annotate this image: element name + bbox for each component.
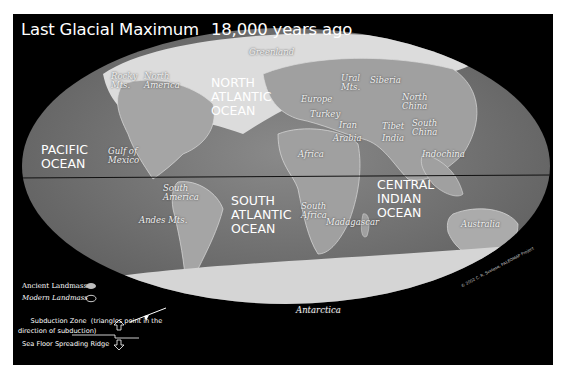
label-europe: Europe: [301, 95, 332, 104]
title-text: Last Glacial Maximum: [21, 20, 199, 39]
label-central-indian-ocean: CENTRAL INDIAN OCEAN: [377, 178, 434, 220]
label-ural-mts: Ural Mts.: [341, 74, 360, 92]
legend-label: Sea Floor Spreading Ridge: [22, 340, 109, 348]
label-arabia: Arabia: [333, 134, 362, 143]
ridge-line-icon: [71, 332, 141, 340]
label-greenland: Greenland: [249, 48, 294, 57]
legend-sea-floor-spreading-ridge: Sea Floor Spreading Ridge: [22, 340, 109, 348]
page-header-caption: [0, 0, 200, 6]
label-siberia: Siberia: [370, 76, 401, 85]
label-tibet: Tibet: [382, 122, 404, 131]
label-andes-mts: Andes Mts.: [139, 216, 187, 225]
label-south-china: South China: [412, 119, 437, 137]
label-south-atlantic-ocean: SOUTH ATLANTIC OCEAN: [231, 194, 291, 236]
label-iran: Iran: [339, 121, 357, 130]
arrow-up-icon: [113, 319, 125, 331]
label-south-america: South America: [163, 184, 199, 202]
subtitle-text: 18,000 years ago: [211, 20, 352, 39]
label-gulf-of-mexico: Gulf of Mexico: [108, 147, 139, 165]
subduction-line-icon: [128, 306, 168, 346]
arrow-down-icon: [113, 339, 125, 351]
map-title: Last Glacial Maximum18,000 years ago: [21, 20, 352, 39]
label-antarctica: Antarctica: [296, 306, 341, 315]
label-north-china: North China: [402, 93, 428, 111]
label-turkey: Turkey: [310, 110, 340, 119]
outline-blob-icon: [85, 294, 97, 303]
legend-modern-landmass: Modern Landmass: [22, 294, 88, 302]
label-indochina: Indochina: [422, 150, 465, 159]
legend-label: Modern Landmass: [22, 294, 88, 302]
label-africa: Africa: [298, 150, 324, 159]
label-pacific-ocean: PACIFIC OCEAN: [41, 143, 88, 171]
label-rocky-mts: Rocky Mts.: [111, 72, 137, 90]
label-india: India: [382, 134, 404, 143]
map-frame: Last Glacial Maximum18,000 years ago PAC…: [13, 14, 553, 365]
label-north-america: North America: [144, 72, 180, 90]
filled-blob-icon: [85, 282, 97, 290]
label-south-africa: South Africa: [301, 202, 327, 220]
label-australia: Australia: [461, 220, 500, 229]
label-north-atlantic-ocean: NORTH ATLANTIC OCEAN: [211, 76, 271, 118]
legend-ancient-landmass: Ancient Landmass: [22, 282, 87, 290]
legend-label: Ancient Landmass: [22, 282, 87, 290]
label-madagascar: Madagascar: [326, 218, 379, 227]
